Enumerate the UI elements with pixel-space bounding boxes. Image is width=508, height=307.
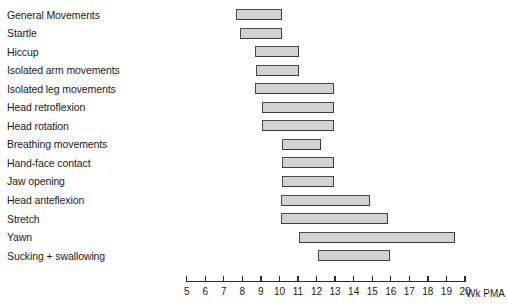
axis-tick	[242, 276, 243, 281]
axis-tick	[297, 276, 298, 281]
axis-tick-label: 6	[202, 286, 208, 297]
axis-tick-label: 12	[311, 286, 322, 297]
range-bar	[282, 176, 334, 187]
axis-tick-label: 19	[441, 286, 452, 297]
range-bar	[236, 9, 282, 20]
axis-tick	[316, 276, 317, 281]
plot-area	[0, 0, 508, 270]
axis-title: Wk PMA	[466, 288, 505, 299]
axis-tick	[334, 276, 335, 281]
axis-tick-label: 8	[240, 286, 246, 297]
axis-tick-label: 11	[293, 286, 303, 297]
axis-tick	[464, 276, 465, 281]
range-bar	[282, 139, 321, 150]
range-bar	[281, 213, 389, 224]
axis-tick-label: 10	[274, 286, 285, 297]
axis-tick-label: 7	[221, 286, 227, 297]
axis-tick-label: 20	[459, 286, 470, 297]
range-bar	[282, 157, 334, 168]
range-bar	[256, 65, 299, 76]
axis-tick-label: 9	[258, 286, 264, 297]
axis-tick	[353, 276, 354, 281]
axis-tick	[205, 276, 206, 281]
axis-tick-label: 18	[422, 286, 433, 297]
range-bar	[262, 102, 334, 113]
axis-tick-label: 15	[367, 286, 378, 297]
axis-tick	[223, 276, 224, 281]
range-bar	[262, 120, 334, 131]
axis-baseline	[186, 281, 466, 282]
range-bar	[240, 28, 283, 39]
axis-tick-label: 17	[404, 286, 415, 297]
axis-tick	[427, 276, 428, 281]
axis-tick	[279, 276, 280, 281]
axis-tick	[390, 276, 391, 281]
range-bar	[299, 232, 455, 243]
axis-tick	[260, 276, 261, 281]
axis-tick	[409, 276, 410, 281]
axis-tick-label: 5	[184, 286, 190, 297]
axis-tick-label: 13	[330, 286, 341, 297]
range-bar	[255, 83, 335, 94]
fetal-movement-range-chart: General MovementsStartleHiccupIsolated a…	[0, 0, 508, 307]
axis-tick-label: 16	[385, 286, 396, 297]
axis-tick	[186, 276, 187, 281]
axis-tick	[372, 276, 373, 281]
range-bar	[318, 250, 390, 261]
range-bar	[255, 46, 300, 57]
axis-tick-label: 14	[348, 286, 359, 297]
axis-tick	[446, 276, 447, 281]
range-bar	[281, 195, 370, 206]
